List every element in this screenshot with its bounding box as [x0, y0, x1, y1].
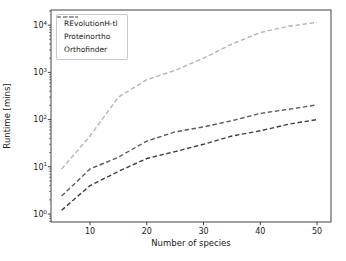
legend-entry: Orthofinder	[64, 45, 118, 55]
figure: 1020304050100101102103104 Number of spec…	[0, 0, 346, 261]
y-tick-label: 103	[33, 67, 47, 77]
legend-label: Proteinortho	[64, 33, 110, 41]
legend-entry: REvolutionH-tl	[64, 19, 118, 29]
x-tick-label: 20	[142, 227, 152, 236]
x-tick-label: 10	[85, 227, 95, 236]
legend: REvolutionH-tl Proteinortho Orthofinder	[56, 14, 128, 60]
x-tick-label: 40	[255, 227, 265, 236]
legend-label: Orthofinder	[64, 46, 107, 54]
legend-label: REvolutionH-tl	[64, 20, 118, 28]
y-tick-label: 102	[33, 114, 47, 124]
x-tick-label: 30	[198, 227, 208, 236]
chart-svg: 1020304050100101102103104 Number of spec…	[0, 0, 346, 261]
x-tick-label: 50	[312, 227, 322, 236]
y-tick-label: 100	[33, 209, 47, 219]
y-axis-label: Runtime [mins]	[2, 83, 12, 148]
y-tick-label: 101	[33, 161, 47, 171]
series-line-Proteinortho	[62, 105, 317, 196]
legend-entry: Proteinortho	[64, 32, 118, 42]
dashed-line-sample	[57, 15, 78, 19]
x-axis-label: Number of species	[151, 238, 231, 248]
y-tick-label: 104	[33, 20, 47, 30]
